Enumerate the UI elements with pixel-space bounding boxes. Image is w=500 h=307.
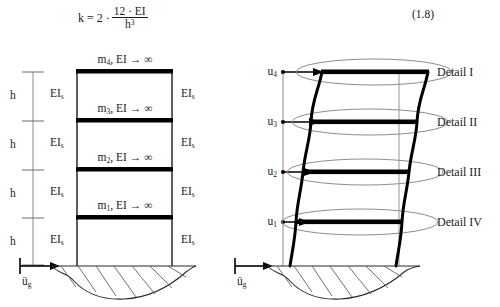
ei-subscript: s <box>192 238 195 247</box>
ei-base: EI <box>50 87 61 99</box>
mass-base-3: m <box>98 102 107 114</box>
right-reference-axis <box>281 70 285 266</box>
column-stiffness-left-2: EIs <box>50 186 64 199</box>
column-stiffness-right-3: EIs <box>181 137 195 150</box>
right-foundation-soil <box>268 266 420 299</box>
column-stiffness-left-3: EIs <box>50 137 64 150</box>
column-stiffness-left-4: EIs <box>50 88 64 101</box>
ei-subscript: s <box>61 141 64 150</box>
storey-height-label-1: h <box>10 236 16 248</box>
mass-suffix-4: , EI → ∞ <box>110 53 152 65</box>
ei-subscript: s <box>61 238 64 247</box>
ei-base: EI <box>50 233 61 245</box>
ei-subscript: s <box>192 92 195 101</box>
u-index-1: 1 <box>273 220 277 229</box>
displacement-label-3: u3 <box>267 116 277 129</box>
ei-base: EI <box>181 87 192 99</box>
u-index-4: 4 <box>273 70 277 79</box>
ei-subscript: s <box>61 190 64 199</box>
equation-numerator: 12 · EI <box>112 5 148 17</box>
u-index-3: 3 <box>273 120 277 129</box>
equation-denominator: h3 <box>123 18 137 30</box>
displacement-label-1: u1 <box>267 216 277 229</box>
right-ground-motion-label: üg <box>237 276 247 289</box>
equation-number: (1.8) <box>412 9 434 21</box>
ei-base: EI <box>50 136 61 148</box>
equation-lhs: k = 2 · <box>78 12 110 24</box>
u-index-2: 2 <box>273 170 277 179</box>
figure-graphics <box>0 0 500 307</box>
storey-height-label-3: h <box>10 139 16 151</box>
ei-subscript: s <box>61 92 64 101</box>
detail-label-2: Detail II <box>437 116 477 128</box>
right-ug-subscript: g <box>243 280 247 289</box>
column-stiffness-right-4: EIs <box>181 88 195 101</box>
left-frame-floor-slabs <box>76 69 173 220</box>
left-ground-motion-label: üg <box>22 276 32 289</box>
right-ground-motion-arrow <box>235 258 273 274</box>
equation-1-8: k = 2 · 12 · EI h3 <box>78 5 148 30</box>
floor-mass-label-4: m4, EI → ∞ <box>98 54 153 67</box>
left-dimension-line <box>22 72 44 265</box>
ei-base: EI <box>181 185 192 197</box>
displacement-label-2: u2 <box>267 166 277 179</box>
right-deformed-columns <box>290 72 428 266</box>
column-stiffness-right-2: EIs <box>181 186 195 199</box>
mass-base-4: m <box>98 53 107 65</box>
ei-base: EI <box>181 233 192 245</box>
ei-base: EI <box>181 136 192 148</box>
left-foundation-soil <box>52 266 196 299</box>
mass-suffix-3: , EI → ∞ <box>110 102 152 114</box>
mass-base-2: m <box>98 151 107 163</box>
detail-label-1: Detail I <box>437 66 473 78</box>
ei-subscript: s <box>192 141 195 150</box>
ei-subscript: s <box>192 190 195 199</box>
floor-mass-label-1: m1, EI → ∞ <box>98 200 153 213</box>
left-ug-subscript: g <box>28 280 32 289</box>
figure-canvas: (1.8) k = 2 · 12 · EI h3 h h h h üg m4, … <box>0 0 500 307</box>
displacement-label-4: u4 <box>267 66 277 79</box>
column-stiffness-left-1: EIs <box>50 234 64 247</box>
denominator-exponent: 3 <box>131 18 135 27</box>
ei-base: EI <box>50 185 61 197</box>
storey-height-label-2: h <box>10 188 16 200</box>
floor-mass-label-3: m3, EI → ∞ <box>98 103 153 116</box>
mass-base-1: m <box>98 199 107 211</box>
column-stiffness-right-1: EIs <box>181 234 195 247</box>
mass-suffix-1: , EI → ∞ <box>110 199 152 211</box>
floor-mass-label-2: m2, EI → ∞ <box>98 152 153 165</box>
equation-fraction: 12 · EI h3 <box>112 5 148 30</box>
detail-label-3: Detail III <box>437 166 481 178</box>
mass-suffix-2: , EI → ∞ <box>110 151 152 163</box>
detail-label-4: Detail IV <box>437 216 482 228</box>
storey-height-label-4: h <box>10 90 16 102</box>
